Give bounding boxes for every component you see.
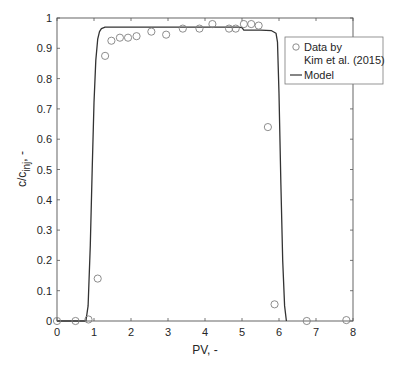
y-tick-label: 0.9 xyxy=(37,42,52,54)
x-tick-label: 8 xyxy=(350,326,356,338)
x-tick-label: 7 xyxy=(313,326,319,338)
x-axis-label: PV, - xyxy=(192,343,218,357)
x-tick-label: 3 xyxy=(165,326,171,338)
y-axis-label-main: c/c xyxy=(15,172,29,187)
legend-entry-data-line1: Data by xyxy=(304,41,342,53)
y-tick-label: 0.8 xyxy=(37,73,52,85)
y-tick-label: 0.3 xyxy=(37,224,52,236)
y-axis-label-suffix: , - xyxy=(15,151,29,162)
x-tick-label: 6 xyxy=(276,326,282,338)
chart-canvas: 012345678 00.10.20.30.40.50.60.70.80.91 … xyxy=(0,0,393,368)
y-tick-label: 0.7 xyxy=(37,103,52,115)
y-axis-label-subscript: inj xyxy=(21,162,32,172)
legend-entry-model: Model xyxy=(304,69,334,81)
legend: Data by Kim et al. (2015) Model xyxy=(285,37,385,84)
y-tick-label: 0.6 xyxy=(37,133,52,145)
x-tick-label: 1 xyxy=(91,326,97,338)
y-tick-label: 0.4 xyxy=(37,194,52,206)
y-tick-label: 0.2 xyxy=(37,254,52,266)
x-tick-label: 2 xyxy=(128,326,134,338)
x-tick-label: 0 xyxy=(54,326,60,338)
y-tick-label: 0 xyxy=(46,315,52,327)
y-tick-label: 1 xyxy=(46,12,52,24)
x-tick-label: 4 xyxy=(202,326,208,338)
x-tick-label: 5 xyxy=(239,326,245,338)
svg-text:c/cinj, -: c/cinj, - xyxy=(15,151,32,187)
legend-entry-data-line2: Kim et al. (2015) xyxy=(304,54,385,66)
y-axis-label: c/cinj, - xyxy=(15,151,32,187)
y-tick-label: 0.1 xyxy=(37,285,52,297)
y-tick-label: 0.5 xyxy=(37,164,52,176)
